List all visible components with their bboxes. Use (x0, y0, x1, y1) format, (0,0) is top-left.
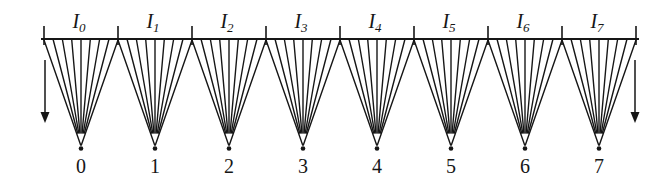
fan-vertex-dot (375, 146, 380, 151)
fan-ray (303, 40, 340, 145)
diagram-canvas: I00I11I22I33I44I55I66I77 (0, 0, 669, 180)
interval-label: I6 (515, 10, 530, 35)
fan-ray (377, 40, 414, 145)
fan-vertex-dot (227, 146, 232, 151)
fan-ray (599, 40, 636, 145)
fan-ray (562, 40, 599, 145)
fan-ray (525, 40, 562, 145)
fan-vertex-dot (301, 146, 306, 151)
interval-label: I0 (71, 10, 86, 35)
point-label: 6 (520, 155, 530, 177)
point-label: 4 (372, 155, 382, 177)
fan-ray (229, 40, 266, 145)
fan-vertex-dot (449, 146, 454, 151)
point-label: 7 (594, 155, 604, 177)
fan-ray (266, 40, 303, 145)
interval-label: I7 (589, 10, 604, 35)
down-arrow-head (41, 112, 50, 123)
interval-label: I5 (441, 10, 456, 35)
point-label: 3 (298, 155, 308, 177)
down-arrow-head (631, 112, 640, 123)
fan-vertex-dot (79, 146, 84, 151)
interval-label: I4 (367, 10, 382, 35)
interval-label: I1 (145, 10, 159, 35)
interval-label: I3 (293, 10, 308, 35)
fan-ray (488, 40, 525, 145)
fan-ray (340, 40, 377, 145)
fan-ray (44, 40, 81, 145)
fan-ray (451, 40, 488, 145)
fan-ray (81, 40, 118, 145)
fan-vertex-dot (153, 146, 158, 151)
fan-ray (118, 40, 155, 145)
fan-vertex-dot (523, 146, 528, 151)
fan-ray (414, 40, 451, 145)
interval-fan-diagram: I00I11I22I33I44I55I66I77 (0, 0, 669, 180)
point-label: 2 (224, 155, 234, 177)
point-label: 0 (76, 155, 86, 177)
point-label: 1 (150, 155, 160, 177)
point-label: 5 (446, 155, 456, 177)
fan-vertex-dot (597, 146, 602, 151)
fan-ray (192, 40, 229, 145)
interval-label: I2 (219, 10, 234, 35)
fan-ray (155, 40, 192, 145)
